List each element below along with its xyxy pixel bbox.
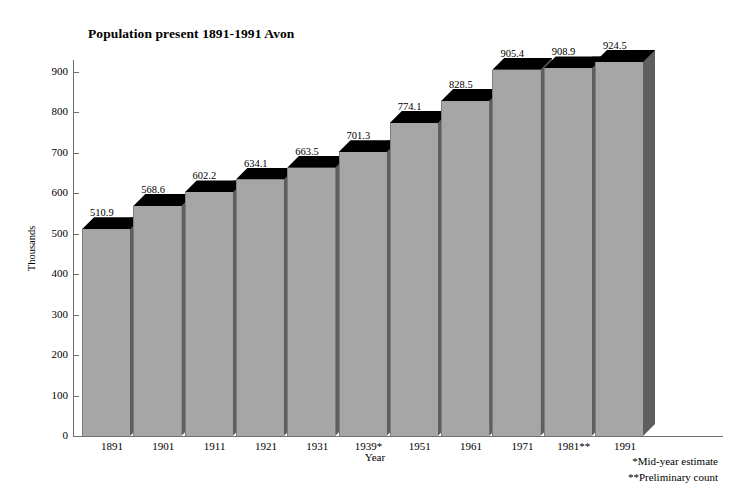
bar-value-label: 602.2 <box>193 170 217 181</box>
bar-front-face <box>133 206 181 436</box>
y-axis-tick <box>73 315 79 316</box>
y-axis-line <box>73 60 74 437</box>
y-axis-tick-label: 0 <box>34 430 68 441</box>
bar-value-label: 924.5 <box>603 40 627 51</box>
y-axis-tick-label-text: 400 <box>38 268 68 279</box>
y-axis-tick-label-text: 100 <box>38 390 68 401</box>
y-axis-tick-label-text: 0 <box>38 430 68 441</box>
x-axis-title: Year <box>340 451 410 463</box>
bar-column <box>595 50 655 436</box>
bar-value-label: 701.3 <box>347 130 371 141</box>
x-axis-line <box>73 436 723 437</box>
bar-front-face <box>82 229 130 436</box>
y-axis-title: Thousands <box>26 209 37 289</box>
y-axis-tick-label: 500 <box>34 228 68 239</box>
y-axis-tick <box>73 234 79 235</box>
x-axis-tick-label: 1991 <box>590 440 660 453</box>
y-axis-tick-label: 700 <box>34 147 68 158</box>
bar-front-face <box>544 68 592 436</box>
bar-value-label: 774.1 <box>398 101 422 112</box>
y-axis-tick-label-text: 600 <box>38 187 68 198</box>
bar-front-face <box>287 168 335 436</box>
footnote-preliminary-count: **Preliminary count <box>628 471 718 484</box>
bar-front-face <box>185 192 233 436</box>
y-axis-tick-label: 600 <box>34 187 68 198</box>
y-axis-tick-label: 300 <box>34 309 68 320</box>
y-axis-tick <box>73 396 79 397</box>
bar-front-face <box>595 62 643 436</box>
y-axis-tick-label: 100 <box>34 390 68 401</box>
bar-value-label: 905.4 <box>500 48 524 59</box>
bar-front-face <box>236 180 284 436</box>
y-axis-tick <box>73 193 79 194</box>
bar-value-label: 663.5 <box>295 146 319 157</box>
bar-front-face <box>492 70 540 436</box>
bar-value-label: 568.6 <box>141 184 165 195</box>
bar-value-label: 634.1 <box>244 158 268 169</box>
y-axis-tick-label: 400 <box>34 268 68 279</box>
y-axis-tick <box>73 153 79 154</box>
bar-side-face <box>643 50 655 436</box>
y-axis-tick-label: 800 <box>34 106 68 117</box>
y-axis-tick <box>73 112 79 113</box>
y-axis-tick <box>73 355 79 356</box>
y-axis-tick-label-text: 200 <box>38 349 68 360</box>
y-axis-tick-label-text: 700 <box>38 147 68 158</box>
y-axis-tick-label-text: 500 <box>38 228 68 239</box>
y-axis-tick <box>73 274 79 275</box>
bar-value-label: 908.9 <box>552 46 576 57</box>
y-axis-tick <box>73 72 79 73</box>
bar-value-label: 828.5 <box>449 79 473 90</box>
bar-value-label: 510.9 <box>90 207 114 218</box>
y-axis-tick <box>73 436 79 437</box>
footnote-mid-year-estimate: *Mid-year estimate <box>632 455 718 468</box>
y-axis-tick-label: 200 <box>34 349 68 360</box>
bar-front-face <box>441 101 489 436</box>
y-axis-tick-label-text: 300 <box>38 309 68 320</box>
y-axis-tick-label-text: 800 <box>38 106 68 117</box>
y-axis-tick-label-text: 900 <box>38 66 68 77</box>
chart-figure: Population present 1891-1991 Avon 010020… <box>0 0 730 495</box>
bar-front-face <box>390 123 438 436</box>
plot-area: 0100200300400500600700800900 18911901191… <box>0 0 730 495</box>
bar-front-face <box>339 152 387 436</box>
y-axis-tick-label: 900 <box>34 66 68 77</box>
